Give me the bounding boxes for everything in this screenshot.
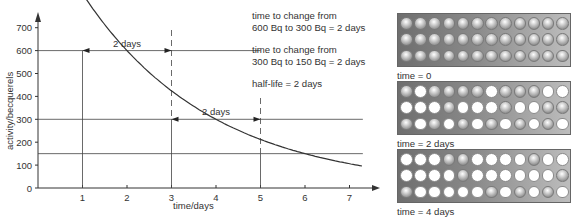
decayed-nucleus-icon — [514, 169, 527, 182]
grid-label: time = 2 days — [397, 138, 571, 149]
undecayed-nucleus-icon — [414, 17, 427, 30]
undecayed-nucleus-icon — [514, 118, 527, 131]
ball-row — [400, 169, 570, 182]
decayed-nucleus-icon — [443, 169, 456, 182]
decayed-nucleus-icon — [471, 169, 484, 182]
ball-row — [400, 186, 570, 199]
grid-label: time = 0 — [397, 70, 571, 81]
nuclei-grid-t0: time = 0 — [397, 13, 571, 81]
undecayed-nucleus-icon — [528, 33, 541, 46]
y-axis-label: activity/becquerels — [4, 72, 15, 150]
decayed-nucleus-icon — [528, 169, 541, 182]
decayed-nucleus-icon — [414, 118, 427, 131]
undecayed-nucleus-icon — [400, 118, 413, 131]
undecayed-nucleus-icon — [542, 186, 555, 199]
undecayed-nucleus-icon — [428, 85, 441, 98]
decayed-nucleus-icon — [528, 186, 541, 199]
decayed-nucleus-icon — [471, 153, 484, 166]
undecayed-nucleus-icon — [471, 33, 484, 46]
undecayed-nucleus-icon — [400, 33, 413, 46]
decayed-nucleus-icon — [400, 169, 413, 182]
y-tick-label: 100 — [16, 160, 32, 171]
ball-row — [400, 50, 570, 63]
x-tick-label: 7 — [347, 192, 352, 203]
decayed-nucleus-icon — [428, 101, 441, 114]
arrowhead-left-icon — [83, 48, 90, 53]
decayed-nucleus-icon — [542, 85, 555, 98]
undecayed-nucleus-icon — [457, 17, 470, 30]
decayed-nucleus-icon — [471, 186, 484, 199]
decayed-nucleus-icon — [556, 186, 569, 199]
x-tick-label: 2 — [124, 192, 129, 203]
undecayed-nucleus-icon — [485, 118, 498, 131]
decayed-nucleus-icon — [414, 186, 427, 199]
undecayed-nucleus-icon — [457, 50, 470, 63]
y-tick-label: 300 — [16, 114, 32, 125]
decayed-nucleus-icon — [485, 85, 498, 98]
undecayed-nucleus-icon — [414, 50, 427, 63]
decayed-nucleus-icon — [499, 169, 512, 182]
undecayed-nucleus-icon — [542, 101, 555, 114]
undecayed-nucleus-icon — [499, 50, 512, 63]
arrowhead-left-icon — [172, 117, 179, 122]
arrowhead-right-icon — [254, 117, 261, 122]
undecayed-nucleus-icon — [443, 17, 456, 30]
undecayed-nucleus-icon — [528, 50, 541, 63]
undecayed-nucleus-icon — [471, 17, 484, 30]
undecayed-nucleus-icon — [443, 33, 456, 46]
x-tick-label: 1 — [80, 192, 85, 203]
nuclei-grid-t2: time = 2 days — [397, 81, 571, 149]
decayed-nucleus-icon — [528, 101, 541, 114]
undecayed-nucleus-icon — [428, 17, 441, 30]
ball-row — [400, 101, 570, 114]
undecayed-nucleus-icon — [528, 17, 541, 30]
undecayed-nucleus-icon — [485, 186, 498, 199]
decayed-nucleus-icon — [443, 186, 456, 199]
decayed-nucleus-icon — [414, 85, 427, 98]
undecayed-nucleus-icon — [556, 17, 569, 30]
undecayed-nucleus-icon — [457, 33, 470, 46]
y-tick-label: 200 — [16, 137, 32, 148]
undecayed-nucleus-icon — [514, 33, 527, 46]
y-tick-label: 400 — [16, 91, 32, 102]
undecayed-nucleus-icon — [471, 85, 484, 98]
undecayed-nucleus-icon — [542, 50, 555, 63]
decayed-nucleus-icon — [400, 153, 413, 166]
undecayed-nucleus-icon — [457, 169, 470, 182]
decayed-nucleus-icon — [414, 169, 427, 182]
undecayed-nucleus-icon — [400, 186, 413, 199]
undecayed-nucleus-icon — [443, 50, 456, 63]
note-line: 300 Bq to 150 Bq = 2 days — [252, 56, 365, 67]
undecayed-nucleus-icon — [471, 50, 484, 63]
undecayed-nucleus-icon — [443, 101, 456, 114]
undecayed-nucleus-icon — [528, 85, 541, 98]
note-line: time to change from — [252, 44, 337, 55]
undecayed-nucleus-icon — [428, 50, 441, 63]
ball-row — [400, 118, 570, 131]
decayed-nucleus-icon — [428, 153, 441, 166]
grid-box — [397, 81, 571, 135]
note-line: half-life = 2 days — [252, 78, 322, 89]
note-half-life: half-life = 2 days — [252, 78, 365, 90]
undecayed-nucleus-icon — [556, 101, 569, 114]
undecayed-nucleus-icon — [556, 33, 569, 46]
y-tick-label: 0 — [27, 183, 32, 194]
ball-row — [400, 33, 570, 46]
note-line: time to change from — [252, 10, 337, 21]
undecayed-nucleus-icon — [542, 118, 555, 131]
undecayed-nucleus-icon — [514, 186, 527, 199]
undecayed-nucleus-icon — [443, 153, 456, 166]
decayed-nucleus-icon — [485, 169, 498, 182]
undecayed-nucleus-icon — [443, 85, 456, 98]
x-tick-label: 6 — [302, 192, 307, 203]
y-tick-label: 600 — [16, 45, 32, 56]
decayed-nucleus-icon — [499, 186, 512, 199]
ball-row — [400, 85, 570, 98]
note-600-300: time to change from 600 Bq to 300 Bq = 2… — [252, 10, 365, 34]
undecayed-nucleus-icon — [485, 17, 498, 30]
decayed-nucleus-icon — [556, 85, 569, 98]
decayed-nucleus-icon — [556, 118, 569, 131]
undecayed-nucleus-icon — [499, 85, 512, 98]
undecayed-nucleus-icon — [457, 85, 470, 98]
decayed-nucleus-icon — [414, 101, 427, 114]
